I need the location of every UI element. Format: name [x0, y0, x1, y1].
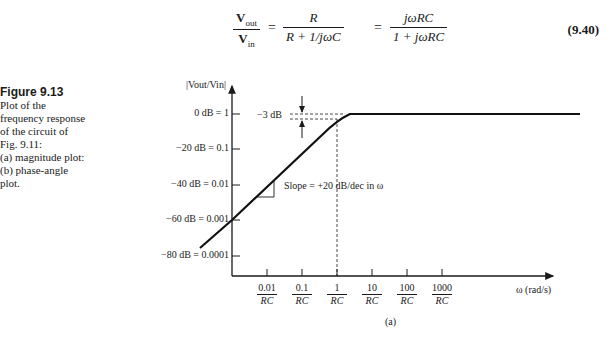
x-ticks [267, 269, 442, 276]
x-tick-label: 1000RC [422, 282, 462, 306]
y-tick-label: −40 dB = 0.01 [99, 178, 229, 189]
x-tick-label: 0.1RC [282, 282, 322, 306]
x-axis-label: ω (rad/s) [516, 284, 551, 295]
y-tick-label: −20 dB = 0.1 [99, 142, 229, 153]
magnitude-curve [200, 114, 580, 248]
x-tick-label: 0.01RC [247, 282, 287, 306]
y-tick-label: −80 dB = 0.0001 [99, 249, 229, 260]
x-tick-label: 10RC [352, 282, 392, 306]
slope-annotation: Slope = +20 dB/dec in ω [284, 180, 383, 191]
y-ticks [232, 114, 240, 256]
x-tick-label: 1RC [317, 282, 357, 306]
minus-3db-annotation: −3 dB [257, 109, 282, 120]
subplot-label: (a) [385, 316, 396, 327]
x-tick-label: 100RC [387, 282, 427, 306]
y-tick-label: 0 dB = 1 [99, 107, 229, 118]
y-tick-label: −60 dB = 0.001 [99, 213, 229, 224]
y-axis-label: |Vout/Vin| [186, 79, 226, 90]
